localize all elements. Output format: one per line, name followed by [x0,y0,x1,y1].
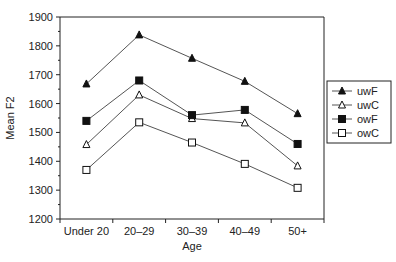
y-axis: 12001300140015001600170018001900 [29,11,324,225]
series-markers-uwC [83,91,301,169]
y-tick-label: 1600 [29,98,53,110]
y-tick-label: 1500 [29,126,53,138]
data-point-marker [294,184,301,191]
x-tick-label: Under 20 [64,225,109,237]
series-markers-uwF [83,31,301,117]
data-point-marker [83,117,90,124]
y-tick-label: 1200 [29,213,53,225]
series-layer [83,31,301,191]
legend-label: uwF [357,85,378,97]
x-axis: Under 2020–2930–3940–4950+ [60,219,324,237]
data-point-marker [189,54,196,61]
x-axis-label: Age [182,240,202,252]
series-markers-owF [83,77,301,147]
series-line [86,35,297,114]
y-tick-label: 1800 [29,40,53,52]
data-point-marker [294,162,301,169]
y-tick-label: 1300 [29,184,53,196]
series-uwF [86,35,297,114]
data-point-marker [136,119,143,126]
x-tick-label: 50+ [288,225,307,237]
y-axis-label: Mean F2 [4,96,16,139]
legend-label: uwC [357,99,379,111]
data-point-marker [136,91,143,98]
data-point-marker [241,106,248,113]
data-point-marker [136,77,143,84]
data-point-marker [241,160,248,167]
y-tick-label: 1700 [29,69,53,81]
y-tick-label: 1900 [29,11,53,23]
x-tick-label: 40–49 [230,225,261,237]
y-tick-label: 1400 [29,155,53,167]
data-point-marker [83,166,90,173]
x-tick-label: 20–29 [124,225,155,237]
series-markers-owC [83,119,301,192]
data-point-marker [189,112,196,119]
legend: uwFuwCowFowC [327,81,391,143]
legend-marker-icon [339,130,346,137]
data-point-marker [294,140,301,147]
series-owC [86,122,297,188]
legend-label: owC [357,127,379,139]
legend-label: owF [357,113,378,125]
data-point-marker [294,110,301,117]
data-point-marker [189,139,196,146]
series-line [86,95,297,166]
series-line [86,122,297,188]
x-tick-label: 30–39 [177,225,208,237]
line-chart: 12001300140015001600170018001900 Under 2… [0,0,396,262]
series-uwC [86,95,297,166]
data-point-marker [136,31,143,38]
data-point-marker [241,77,248,84]
legend-marker-icon [339,116,346,123]
